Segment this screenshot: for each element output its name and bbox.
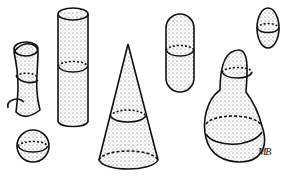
cone: [99, 44, 158, 169]
capsule: [166, 14, 194, 92]
small-ellipsoid: [257, 8, 279, 48]
curved-tube: [8, 42, 40, 116]
gourd: [205, 50, 265, 162]
artist-signature: MB: [258, 146, 270, 157]
small-sphere: [17, 130, 49, 162]
tall-cylinder: [58, 8, 88, 127]
shapes-illustration: [0, 0, 286, 177]
